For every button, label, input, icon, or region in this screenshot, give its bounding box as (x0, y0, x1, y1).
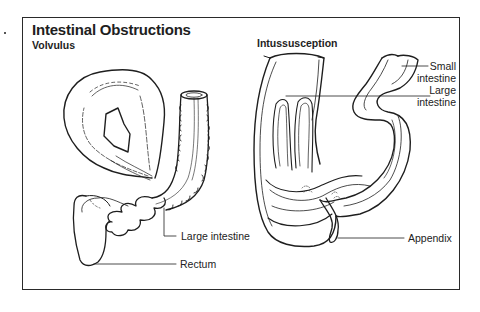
label-small-intestine: Small intestine (410, 60, 456, 84)
label-large-intestine-line2: intestine (410, 96, 456, 108)
label-small-intestine-line1: Small (410, 60, 456, 72)
label-rectum: Rectum (180, 258, 216, 270)
volvulus-sigmoid-rectum (73, 195, 165, 265)
intussusception-leaders (286, 66, 430, 238)
label-large-intestine: Large intestine (181, 230, 250, 242)
label-appendix: Appendix (408, 232, 452, 244)
label-small-intestine-line2: intestine (410, 72, 456, 84)
intussusception-small-intestine (320, 55, 418, 217)
intussusception-inner-folds (266, 98, 370, 226)
illustration (0, 0, 480, 312)
label-large-intestine-right: Large intestine (410, 84, 456, 108)
volvulus-twisted-loop (64, 70, 165, 180)
label-large-intestine-line1: Large (410, 84, 456, 96)
leader-large-intestine (164, 208, 176, 236)
intussusception-stipple (302, 186, 340, 198)
